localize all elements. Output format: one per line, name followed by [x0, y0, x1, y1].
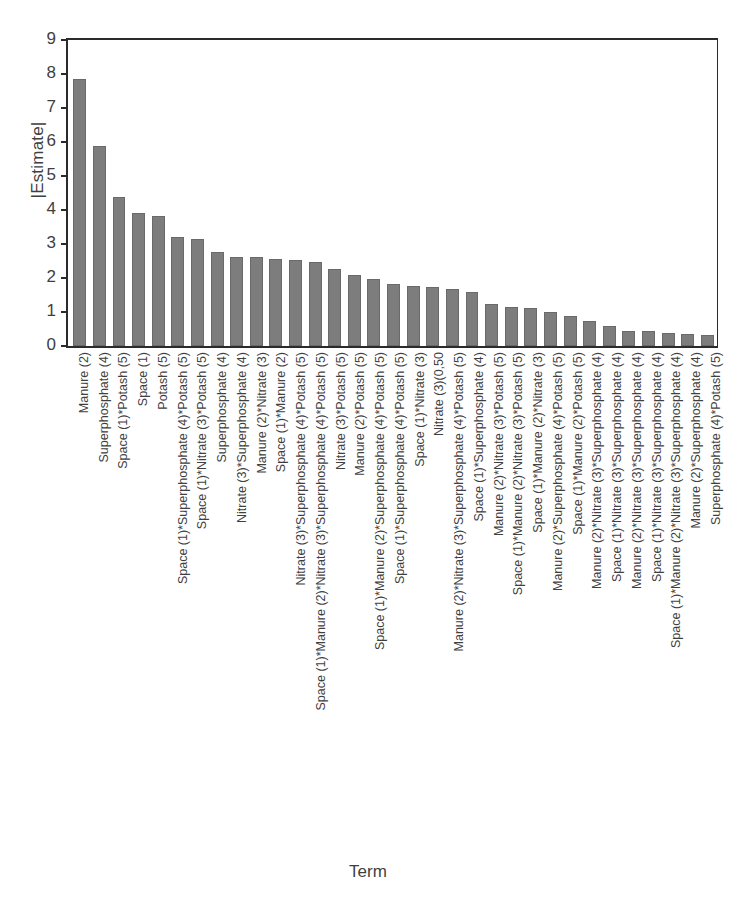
x-axis-label-slot: Manure (2)*Superphosphate (4)	[680, 352, 700, 822]
y-axis-tick-label: 8	[47, 62, 56, 84]
bar-slot	[521, 40, 541, 346]
y-axis-tick-label: 3	[47, 232, 56, 254]
bar	[622, 331, 635, 346]
bar	[328, 269, 341, 346]
y-axis-tick-label: 9	[47, 28, 56, 50]
bar-slot	[70, 40, 90, 346]
y-axis-tick-label: 1	[47, 300, 56, 322]
y-axis-tick-mark	[61, 175, 68, 177]
y-axis-tick-mark	[61, 39, 68, 41]
y-axis-tick-label: 7	[47, 96, 56, 118]
x-axis-label-slot: Superphosphate (4)	[88, 352, 108, 822]
bar-slot	[384, 40, 404, 346]
bar	[662, 333, 675, 346]
bar	[367, 279, 380, 346]
x-axis-label-slot: Nitrate (3)*Superphosphate (4)*Potash (5…	[285, 352, 305, 822]
bar	[269, 259, 282, 346]
x-axis-label-slot: Space (1)*Manure (2)*Nitrate (3)*Superph…	[661, 352, 681, 822]
y-axis-tick-label: 5	[47, 164, 56, 186]
x-axis-label-slot: Space (1)*Manure (2)*Potash (5)	[562, 352, 582, 822]
bar	[583, 321, 596, 346]
bar	[701, 335, 714, 346]
x-axis-label-slot: Space (1)*Nitrate (3)*Superphosphate (4)	[641, 352, 661, 822]
bar	[544, 312, 557, 346]
bar-slot	[168, 40, 188, 346]
bar	[289, 260, 302, 346]
y-axis-tick-label: 6	[47, 130, 56, 152]
bar-slot	[560, 40, 580, 346]
bar-slot	[90, 40, 110, 346]
x-axis-label-slot: Superphosphate (4)*Potash (5)	[700, 352, 720, 822]
bar-slot	[345, 40, 365, 346]
bar	[211, 252, 224, 346]
x-axis-label-slot: Space (1)*Superphosphate (4)*Potash (5)	[167, 352, 187, 822]
bar-slot	[658, 40, 678, 346]
x-axis-label-slot: Space (1)*Nitrate (3)*Superphosphate (4)	[601, 352, 621, 822]
bar-slot	[403, 40, 423, 346]
y-axis-tick-mark	[61, 311, 68, 313]
bar-slot	[364, 40, 384, 346]
x-axis-label-slot: Manure (2)*Nitrate (3)*Superphosphate (4…	[443, 352, 463, 822]
bar-slot	[443, 40, 463, 346]
bar-slot	[188, 40, 208, 346]
bar-slot	[599, 40, 619, 346]
bar-slot	[207, 40, 227, 346]
bar	[485, 304, 498, 346]
x-axis-label-slot: Nitrate (3)(0,50	[424, 352, 444, 822]
x-axis-label-slot: Space (1)*Manure (2)*Nitrate (3)	[522, 352, 542, 822]
bar	[73, 79, 86, 346]
y-axis-tick-mark	[61, 141, 68, 143]
x-axis-label-slot: Space (1)*Manure (2)	[266, 352, 286, 822]
bar	[407, 286, 420, 346]
bar-slot	[227, 40, 247, 346]
x-axis-label-slot: Space (1)*Superphosphate (4)	[463, 352, 483, 822]
bar-slot	[423, 40, 443, 346]
x-axis-label-slot: Space (1)	[127, 352, 147, 822]
y-axis-tick-mark	[61, 277, 68, 279]
bar	[603, 326, 616, 346]
bar	[93, 146, 106, 346]
bar-slot	[129, 40, 149, 346]
x-axis-label-slot: Nitrate (3)*Potash (5)	[325, 352, 345, 822]
bar-slot	[462, 40, 482, 346]
x-axis-label-slot: Space (1)*Manure (2)*Nitrate (3)*Superph…	[305, 352, 325, 822]
x-axis-label-slot: Manure (2)*Potash (5)	[345, 352, 365, 822]
bar-slot	[148, 40, 168, 346]
y-axis-tick-mark	[61, 209, 68, 211]
bar-slot	[482, 40, 502, 346]
x-axis-label-slot: Manure (2)*Nitrate (3)*Potash (5)	[483, 352, 503, 822]
y-axis-tick-label: 2	[47, 266, 56, 288]
bar-slot	[109, 40, 129, 346]
bar	[524, 308, 537, 346]
y-axis-title: |Estimate|	[28, 70, 48, 250]
pareto-chart: |Estimate| 0123456789 Manure (2)Superpho…	[0, 0, 736, 908]
x-axis-tick-labels: Manure (2)Superphosphate (4)Space (1)*Po…	[68, 352, 720, 822]
y-axis-tick-mark	[61, 345, 68, 347]
bar	[152, 216, 165, 346]
x-axis-label-slot: Space (1)*Nitrate (3)	[404, 352, 424, 822]
bar-slot	[501, 40, 521, 346]
bar	[466, 292, 479, 346]
x-axis-label-slot: Space (1)*Manure (2)*Nitrate (3)*Potash …	[503, 352, 523, 822]
bar	[230, 257, 243, 346]
x-axis-title: Term	[0, 862, 736, 882]
bar-slot	[246, 40, 266, 346]
x-axis-label-slot: Superphosphate (4)	[206, 352, 226, 822]
x-axis-tick-label: Superphosphate (4)*Potash (5)	[710, 352, 723, 525]
y-axis-tick-mark	[61, 73, 68, 75]
bar-slot	[286, 40, 306, 346]
bar-slot	[698, 40, 718, 346]
bar	[505, 307, 518, 346]
y-axis-tick-label: 4	[47, 198, 56, 220]
bar	[171, 237, 184, 346]
bar-slot	[619, 40, 639, 346]
x-axis-label-slot: Space (1)*Potash (5)	[108, 352, 128, 822]
x-axis-label-slot: Potash (5)	[147, 352, 167, 822]
x-axis-label-slot: Space (1)*Nitrate (3)*Potash (5)	[187, 352, 207, 822]
x-axis-label-slot: Manure (2)*Nitrate (3)*Superphosphate (4…	[621, 352, 641, 822]
plot-right-border	[717, 40, 718, 346]
bar	[642, 331, 655, 346]
bar-slot	[266, 40, 286, 346]
bar	[446, 289, 459, 346]
x-axis-label-slot: Nitrate (3)*Superphosphate (4)	[226, 352, 246, 822]
